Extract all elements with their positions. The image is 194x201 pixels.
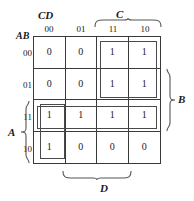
kmap-cell: 1 bbox=[34, 132, 66, 164]
column-header-0: 00 bbox=[33, 25, 65, 34]
kmap-cell: 0 bbox=[66, 69, 98, 101]
column-header-3: 10 bbox=[129, 25, 161, 34]
brace-label-d: D bbox=[100, 183, 108, 194]
kmap-cell: 0 bbox=[66, 132, 98, 164]
brace-label-a: A bbox=[8, 127, 15, 138]
row-header-3: 10 bbox=[16, 145, 32, 154]
column-header-1: 01 bbox=[65, 25, 97, 34]
brace-label-b: B bbox=[178, 94, 185, 105]
row-header-2: 11 bbox=[16, 113, 32, 122]
kmap-cell: 1 bbox=[97, 100, 129, 132]
kmap-cell: 0 bbox=[129, 132, 161, 164]
brace-b-icon bbox=[166, 68, 176, 132]
row-header-0: 00 bbox=[16, 49, 32, 58]
kmap-cell: 1 bbox=[66, 100, 98, 132]
brace-d-icon bbox=[62, 170, 132, 181]
kmap-cell: 1 bbox=[129, 69, 161, 101]
kmap-cell: 1 bbox=[34, 100, 66, 132]
kmap-cell: 0 bbox=[34, 37, 66, 69]
kmap-cell: 1 bbox=[97, 37, 129, 69]
karnaugh-map-figure: CD AB C B A D 00 01 11 10 00 01 11 10 0 … bbox=[0, 0, 194, 201]
kmap-cell: 0 bbox=[34, 69, 66, 101]
kmap-cell: 1 bbox=[97, 69, 129, 101]
brace-label-c: C bbox=[116, 9, 123, 20]
row-variables-label: AB bbox=[16, 30, 29, 41]
kmap-cell: 0 bbox=[97, 132, 129, 164]
brace-a-icon bbox=[20, 100, 30, 164]
kmap-cell: 1 bbox=[129, 100, 161, 132]
row-header-1: 01 bbox=[16, 81, 32, 90]
kmap-grid: 0 0 1 1 0 0 1 1 1 1 1 1 1 0 0 0 bbox=[33, 36, 161, 164]
column-variables-label: CD bbox=[38, 10, 53, 21]
kmap-cell: 0 bbox=[66, 37, 98, 69]
column-header-2: 11 bbox=[97, 25, 129, 34]
kmap-cell: 1 bbox=[129, 37, 161, 69]
